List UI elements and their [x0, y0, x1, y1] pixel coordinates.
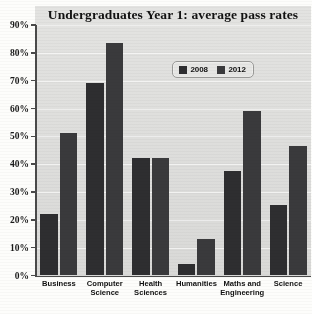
legend-entry-2008: 2008 [179, 65, 208, 74]
category-label-line: Science [261, 279, 312, 288]
y-tick-label: 60% [0, 104, 29, 114]
y-tick-label: 90% [0, 20, 29, 30]
category-label-science: Science [261, 279, 312, 288]
chart-title: Undergraduates Year 1: average pass rate… [35, 7, 311, 23]
bar-computer-science-2012 [106, 43, 124, 275]
y-tick-label: 30% [0, 187, 29, 197]
legend-label: 2008 [191, 65, 208, 74]
bar-chart: Undergraduates Year 1: average pass rate… [0, 0, 312, 314]
legend-entry-2012: 2012 [217, 65, 246, 74]
bar-business-2012 [60, 133, 78, 275]
x-axis-line [35, 276, 311, 278]
y-tick-label: 20% [0, 215, 29, 225]
bar-humanities-2012 [197, 239, 215, 275]
y-tick-label: 80% [0, 48, 29, 58]
category-label-line: Engineering [215, 288, 269, 297]
bar-health-sciences-2008 [132, 158, 150, 275]
legend-label: 2012 [228, 65, 245, 74]
y-tick-label: 50% [0, 131, 29, 141]
bar-computer-science-2008 [86, 83, 104, 275]
legend-swatch-icon [217, 66, 225, 74]
y-tick-label: 0% [0, 271, 29, 281]
legend: 20082012 [172, 61, 254, 78]
bar-health-sciences-2012 [152, 158, 170, 275]
y-tick-label: 70% [0, 76, 29, 86]
bar-business-2008 [40, 214, 58, 275]
bar-science-2012 [289, 146, 307, 275]
y-tick-label: 10% [0, 243, 29, 253]
bar-humanities-2008 [178, 264, 196, 275]
y-tick-label: 40% [0, 159, 29, 169]
bar-maths-and-engineering-2008 [224, 171, 242, 275]
chart-page: Undergraduates Year 1: average pass rate… [0, 0, 312, 314]
bar-maths-and-engineering-2012 [243, 111, 261, 275]
category-label-line: Sciences [124, 288, 178, 297]
legend-swatch-icon [179, 66, 187, 74]
bar-science-2008 [270, 205, 288, 275]
